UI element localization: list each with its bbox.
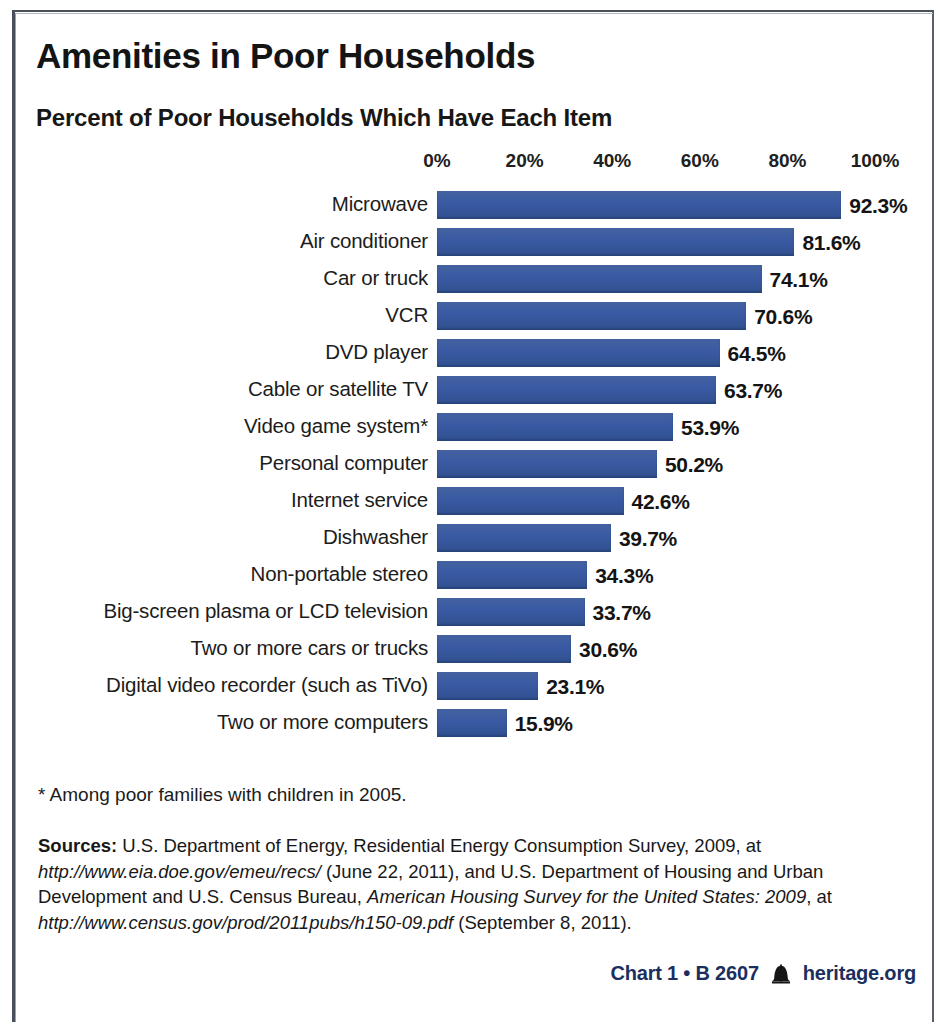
bar-track: 50.2% bbox=[437, 450, 875, 478]
bar bbox=[437, 487, 624, 515]
x-axis-tick-labels: 0%20%40%60%80%100% bbox=[0, 150, 946, 178]
chart-content: Amenities in Poor Households Percent of … bbox=[0, 0, 946, 1022]
bar bbox=[437, 635, 571, 663]
bar-value-label: 33.7% bbox=[593, 601, 651, 625]
bar-track: 23.1% bbox=[437, 672, 875, 700]
bar-category-label: Two or more computers bbox=[8, 710, 428, 734]
bar-category-label: Personal computer bbox=[8, 451, 428, 475]
bar-value-label: 39.7% bbox=[619, 527, 677, 551]
bar-row: Internet service42.6% bbox=[0, 484, 946, 521]
bar-value-label: 70.6% bbox=[754, 305, 812, 329]
bar bbox=[437, 228, 794, 256]
bar-value-label: 23.1% bbox=[546, 675, 604, 699]
x-axis-tick: 20% bbox=[506, 150, 544, 172]
bar-row: Dishwasher39.7% bbox=[0, 521, 946, 558]
bar-category-label: Non-portable stereo bbox=[8, 562, 428, 586]
sources-publication-title: American Housing Survey for the United S… bbox=[367, 886, 806, 907]
chart-page: Amenities in Poor Households Percent of … bbox=[0, 0, 946, 1022]
bar-category-label: Car or truck bbox=[8, 266, 428, 290]
bar-track: 53.9% bbox=[437, 413, 875, 441]
bar-category-label: Digital video recorder (such as TiVo) bbox=[8, 673, 428, 697]
bar-row: Microwave92.3% bbox=[0, 188, 946, 225]
bar-category-label: Big-screen plasma or LCD television bbox=[8, 599, 428, 623]
bar-value-label: 42.6% bbox=[632, 490, 690, 514]
bar-row: Two or more computers15.9% bbox=[0, 706, 946, 743]
bar-category-label: Dishwasher bbox=[8, 525, 428, 549]
x-axis-tick: 100% bbox=[851, 150, 900, 172]
bar-category-label: VCR bbox=[8, 303, 428, 327]
bar bbox=[437, 376, 716, 404]
bar-category-label: Two or more cars or trucks bbox=[8, 636, 428, 660]
x-axis-tick: 0% bbox=[423, 150, 450, 172]
bar-rows: Microwave92.3%Air conditioner81.6%Car or… bbox=[0, 188, 946, 743]
sources-line3: , at bbox=[806, 886, 832, 907]
chart-footnote: * Among poor families with children in 2… bbox=[38, 784, 407, 806]
bar-value-label: 81.6% bbox=[802, 231, 860, 255]
bar bbox=[437, 524, 611, 552]
x-axis-tick: 80% bbox=[768, 150, 806, 172]
bar-track: 92.3% bbox=[437, 191, 875, 219]
sources-url2: http://www.census.gov/prod/2011pubs/h150… bbox=[38, 912, 453, 933]
bar-row: Digital video recorder (such as TiVo)23.… bbox=[0, 669, 946, 706]
bar bbox=[437, 265, 762, 293]
bar-row: Two or more cars or trucks30.6% bbox=[0, 632, 946, 669]
bar-category-label: Video game system* bbox=[8, 414, 428, 438]
bar bbox=[437, 561, 587, 589]
bar-track: 34.3% bbox=[437, 561, 875, 589]
bar-track: 63.7% bbox=[437, 376, 875, 404]
bar-track: 64.5% bbox=[437, 339, 875, 367]
bar-category-label: DVD player bbox=[8, 340, 428, 364]
sources-line1: U.S. Department of Energy, Residential E… bbox=[117, 835, 761, 856]
sources-label: Sources: bbox=[38, 835, 117, 856]
bar-track: 30.6% bbox=[437, 635, 875, 663]
bar-value-label: 63.7% bbox=[724, 379, 782, 403]
bar-row: Personal computer50.2% bbox=[0, 447, 946, 484]
page-title: Amenities in Poor Households bbox=[36, 36, 535, 76]
sources-line4: (September 8, 2011). bbox=[453, 912, 632, 933]
bar-row: Video game system*53.9% bbox=[0, 410, 946, 447]
bar-track: 33.7% bbox=[437, 598, 875, 626]
bar bbox=[437, 672, 538, 700]
bar-category-label: Air conditioner bbox=[8, 229, 428, 253]
bar-row: DVD player64.5% bbox=[0, 336, 946, 373]
bar-category-label: Cable or satellite TV bbox=[8, 377, 428, 401]
bar-track: 39.7% bbox=[437, 524, 875, 552]
bar-value-label: 53.9% bbox=[681, 416, 739, 440]
bar-track: 15.9% bbox=[437, 709, 875, 737]
bar-track: 70.6% bbox=[437, 302, 875, 330]
bar-value-label: 30.6% bbox=[579, 638, 637, 662]
bar-category-label: Microwave bbox=[8, 192, 428, 216]
bar-row: Air conditioner81.6% bbox=[0, 225, 946, 262]
bar-track: 81.6% bbox=[437, 228, 875, 256]
bar-row: Cable or satellite TV63.7% bbox=[0, 373, 946, 410]
bar-row: Non-portable stereo34.3% bbox=[0, 558, 946, 595]
bar bbox=[437, 450, 657, 478]
bar-track: 42.6% bbox=[437, 487, 875, 515]
bar-value-label: 74.1% bbox=[770, 268, 828, 292]
bar-row: Big-screen plasma or LCD television33.7% bbox=[0, 595, 946, 632]
bar-row: VCR70.6% bbox=[0, 299, 946, 336]
bar-value-label: 50.2% bbox=[665, 453, 723, 477]
heritage-site-label: heritage.org bbox=[803, 962, 916, 985]
bar-category-label: Internet service bbox=[8, 488, 428, 512]
bar bbox=[437, 413, 673, 441]
bar bbox=[437, 709, 507, 737]
bar bbox=[437, 191, 841, 219]
bar bbox=[437, 339, 720, 367]
x-axis-tick: 40% bbox=[593, 150, 631, 172]
bar-value-label: 15.9% bbox=[515, 712, 573, 736]
bar-value-label: 64.5% bbox=[728, 342, 786, 366]
bar bbox=[437, 302, 746, 330]
bar-track: 74.1% bbox=[437, 265, 875, 293]
page-subtitle: Percent of Poor Households Which Have Ea… bbox=[36, 104, 612, 132]
bar bbox=[437, 598, 585, 626]
bar-value-label: 34.3% bbox=[595, 564, 653, 588]
sources-url1: http://www.eia.doe.gov/emeu/recs/ bbox=[38, 861, 321, 882]
sources-note: Sources: U.S. Department of Energy, Resi… bbox=[38, 833, 918, 935]
bar-row: Car or truck74.1% bbox=[0, 262, 946, 299]
x-axis-tick: 60% bbox=[681, 150, 719, 172]
chart-id-label: Chart 1 • B 2607 bbox=[610, 962, 758, 985]
liberty-bell-icon bbox=[770, 963, 792, 984]
chart-footer: Chart 1 • B 2607 heritage.org bbox=[610, 962, 916, 985]
bar-value-label: 92.3% bbox=[849, 194, 907, 218]
